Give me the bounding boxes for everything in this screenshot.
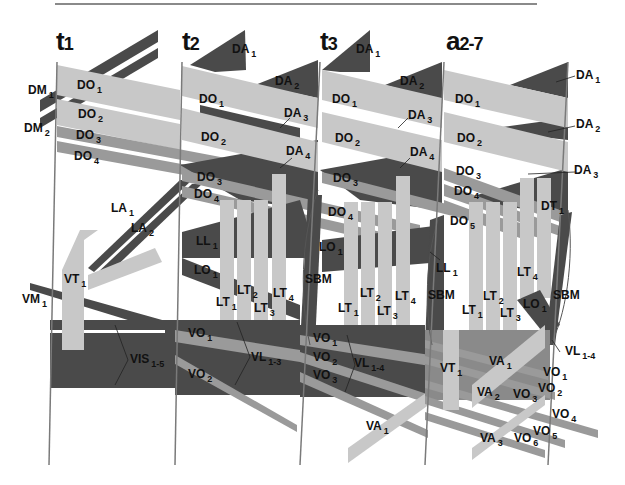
label-t2-DA2: DA2 (275, 75, 299, 91)
label-t3-SBM: SBM (428, 289, 455, 301)
label-t3-DA2: DA2 (400, 75, 424, 91)
label-t3-VO2: VO2 (313, 351, 337, 367)
label-t3-LT1: LT1 (338, 302, 359, 318)
label-t2-DO4: DO4 (194, 188, 219, 204)
label-t2-DA3: DA3 (284, 107, 308, 123)
label-a27-DO1: DO1 (455, 93, 480, 109)
muscle-LT4 (396, 176, 410, 332)
muscle-LT2 (486, 202, 500, 332)
label-t3-DO1: DO1 (332, 93, 357, 109)
label-a27-LT2: LT2 (483, 290, 504, 306)
label-a27-DT1: DT1 (541, 200, 564, 216)
label-t1-DO1: DO1 (77, 79, 102, 95)
label-t3-LT2: LT2 (360, 287, 381, 303)
label-t2-LT3: LT3 (254, 302, 275, 318)
label-t2-DO1: DO1 (199, 93, 224, 109)
label-a27-VA1: VA1 (489, 355, 512, 371)
label-t2-SBM: SBM (305, 273, 332, 285)
label-a27-DO5: DO5 (450, 215, 475, 231)
label-t1-DO4: DO4 (74, 150, 99, 166)
label-a27-DA3: DA3 (574, 164, 598, 180)
label-t3-VA1: VA1 (366, 420, 389, 436)
label-t2-DO3: DO3 (197, 171, 222, 187)
label-a27-LT1: LT1 (462, 304, 483, 320)
label-t2-LL1: LL1 (196, 235, 218, 251)
label-t2-VO1: VO1 (188, 327, 212, 343)
label-t3-LO1: LO1 (319, 241, 343, 257)
label-t2-LO1: LO1 (194, 264, 218, 280)
label-t3-VO3: VO3 (313, 369, 337, 385)
label-a27-DO2: DO2 (457, 132, 482, 148)
label-t2-VL: VL1-3 (251, 351, 281, 367)
label-t3-VL: VL1-4 (354, 357, 384, 373)
segment-boundary (175, 62, 182, 465)
muscle-LT2 (361, 202, 375, 332)
label-t2-LT1: LT1 (216, 296, 237, 312)
label-t3-DA3: DA3 (408, 109, 432, 125)
label-t3-DO2: DO2 (335, 132, 360, 148)
label-t3-DO4: DO4 (328, 206, 353, 222)
label-t3-LT3: LT3 (377, 305, 398, 321)
label-a27-VL: VL1-4 (565, 345, 595, 361)
label-a27-SBM: SBM (553, 289, 580, 301)
muscle-DT1 (537, 178, 551, 298)
label-a27-DA2: DA2 (576, 118, 600, 134)
label-a27-LT4: LT4 (517, 266, 538, 282)
segment-title-t1: t1 (56, 26, 73, 57)
label-t1-DO3: DO3 (76, 129, 101, 145)
label-t3-LT4: LT4 (395, 290, 416, 306)
segment-title-a2-7: a2-7 (446, 26, 482, 57)
label-a27-DO3: DO3 (456, 165, 481, 181)
label-t2-LT2: LT2 (237, 284, 258, 300)
label-t1-VM1: VM1 (22, 293, 47, 309)
label-t1-LA2: LA2 (131, 222, 154, 238)
label-t3-LL1: LL1 (436, 262, 458, 278)
label-a27-VT1: VT1 (440, 362, 462, 378)
label-t3-DA1: DA1 (356, 43, 380, 59)
label-a27-VA2: VA2 (477, 386, 500, 402)
label-a27-VA3: VA3 (480, 432, 503, 448)
label-a27-DA1: DA1 (576, 69, 600, 85)
label-t2-DO2: DO2 (201, 131, 226, 147)
label-a27-VO2: VO2 (538, 382, 562, 398)
label-t3-VO1: VO1 (313, 332, 337, 348)
label-t3-DO3: DO3 (333, 172, 358, 188)
label-t1-LA1: LA1 (111, 202, 134, 218)
label-t3-DA4: DA4 (410, 146, 434, 162)
muscle-LT2 (237, 200, 251, 330)
label-t2-VO2: VO2 (188, 368, 212, 384)
label-t1-VIS: VIS1-5 (130, 353, 164, 369)
segment-boundary (49, 62, 57, 465)
muscle-pattern-diagram (0, 0, 625, 485)
label-t2-DA4: DA4 (286, 145, 310, 161)
label-a27-VO1: VO1 (543, 366, 567, 382)
label-a27-LT3: LT3 (500, 307, 521, 323)
label-t1-VT1: VT1 (64, 273, 86, 289)
label-t1-DO2: DO2 (78, 108, 103, 124)
label-a27-VO3: VO3 (513, 388, 537, 404)
label-t1-DM2: DM2 (24, 122, 50, 138)
label-a27-LO1: LO1 (523, 298, 547, 314)
segment-title-t3: t3 (320, 26, 337, 57)
segment-title-t2: t2 (182, 26, 199, 57)
label-a27-DO4: DO4 (454, 185, 479, 201)
label-t2-DA1: DA1 (232, 43, 256, 59)
label-a27-VO6: VO6 (514, 432, 538, 448)
label-t2-LT4: LT4 (273, 287, 294, 303)
label-a27-VO4: VO4 (552, 408, 576, 424)
label-t1-DM1: DM1 (28, 84, 54, 100)
